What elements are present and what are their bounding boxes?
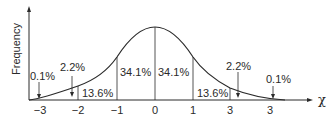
y-axis-label: Frequency <box>10 23 22 75</box>
label-left-1-2sd: 13.6% <box>82 87 113 99</box>
label-right-tail: 0.1% <box>266 73 291 85</box>
tick-label: 1 <box>190 104 196 116</box>
tick-label: 0 <box>152 104 158 116</box>
tick-label: −2 <box>72 104 85 116</box>
tick-label: −1 <box>111 104 124 116</box>
label-left-0-1sd: 34.1% <box>120 66 151 78</box>
label-right-0-1sd: 34.1% <box>158 66 189 78</box>
label-left-2sd: 2.2% <box>60 61 85 73</box>
label-right-2sd: 2.2% <box>226 60 251 72</box>
tick-label: 3 <box>227 104 233 116</box>
normal-distribution-diagram: Frequency χ 0.1% 2.2% 13.6% 34.1% 34.1% … <box>0 0 332 123</box>
y-axis <box>27 6 31 100</box>
label-right-1-2sd: 13.6% <box>197 87 228 99</box>
arrow-left-2sd-icon <box>70 76 74 97</box>
x-axis-arrow-icon <box>307 98 313 102</box>
tick-label: 3 <box>267 104 273 116</box>
y-axis-arrow-icon <box>27 6 31 12</box>
arrow-right-tail-icon <box>271 86 275 99</box>
arrow-left-tail-icon <box>37 82 41 99</box>
tick-label: −3 <box>34 104 47 116</box>
arrow-right-2sd-icon <box>236 72 240 98</box>
label-left-tail: 0.1% <box>30 70 55 82</box>
x-axis-label: χ <box>318 92 326 107</box>
